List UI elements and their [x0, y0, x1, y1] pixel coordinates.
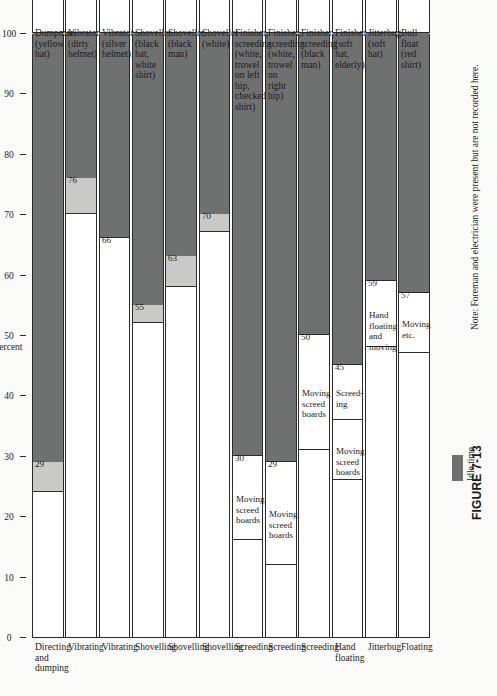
figure-note: Note: Foreman and electrician were prese… — [470, 64, 480, 330]
axis-tick — [20, 637, 26, 638]
bar-segment-idle — [100, 33, 130, 238]
work-segment-label: Moving screed boards — [236, 494, 262, 526]
category-label: Shovelling — [168, 642, 196, 653]
category-label: Screeding — [235, 642, 263, 653]
plot-area: 29Directing and dumpingDumpman (yellow h… — [32, 34, 430, 638]
work-area-edge — [166, 286, 196, 287]
axis-tick-label: 30 — [4, 452, 14, 462]
bar-segment-idle — [200, 33, 230, 214]
bar-row: 76 — [65, 34, 97, 638]
bar-row: 63 — [165, 34, 197, 638]
bar-segment-work — [299, 335, 329, 637]
axis-tick — [20, 395, 26, 396]
axis-tick — [20, 33, 26, 34]
category-label: Vibrating — [68, 642, 96, 653]
bar-segment-idle — [33, 33, 63, 462]
bar-row: 70 — [199, 34, 231, 638]
work-segment-divider — [333, 419, 363, 420]
work-segment-divider — [333, 479, 363, 480]
work-area-edge — [133, 322, 163, 323]
axis-title: Percent — [0, 342, 23, 352]
bar-segment-idle — [299, 33, 329, 335]
work-area-edge — [200, 231, 230, 232]
bar-segment-idle — [366, 33, 396, 281]
bar-value-label: 76 — [68, 175, 77, 185]
bar-row: Moving screed boards30 — [232, 34, 264, 638]
bar-value-label: 55 — [135, 302, 144, 312]
worker-descriptor-label: Finisher, screeding (white, trowel on le… — [235, 28, 263, 112]
bar-segment-idle — [333, 33, 363, 365]
axis-tick-label: 80 — [4, 150, 14, 160]
category-label: Shovelling — [202, 642, 230, 653]
bar-value-label: 66 — [102, 235, 111, 245]
worker-descriptor-label: Dumpman (yellow hat) — [35, 28, 63, 60]
worker-descriptor-label: Finisher (soft hat, elderly) — [335, 28, 363, 70]
work-segment-label: Moving screed boards — [269, 509, 295, 541]
bar-value-label: 57 — [401, 290, 410, 300]
work-segment-label: Moving screed boards — [302, 388, 328, 420]
work-segment-label: Moving etc. — [402, 319, 428, 340]
bar-value-label: 63 — [168, 253, 177, 263]
bar-segment-work — [200, 232, 230, 637]
worker-descriptor-label: Shoveller (white) — [202, 28, 230, 49]
category-label: Vibrating — [102, 642, 130, 653]
bar-value-label: 29 — [268, 459, 277, 469]
axis-tick-label: 100 — [2, 29, 16, 39]
work-segment-divider — [266, 564, 296, 565]
axis-tick — [20, 154, 26, 155]
worker-descriptor-label: Jitterbug (soft hat) — [368, 28, 396, 60]
axis-tick-label: 20 — [4, 512, 14, 522]
work-area-edge — [33, 491, 63, 492]
bar-value-label: 50 — [301, 332, 310, 342]
category-label: Hand floating — [335, 642, 363, 663]
bar-segment-work — [66, 214, 96, 637]
bar-segment-idle — [399, 33, 429, 293]
axis-tick-label: 60 — [4, 271, 14, 281]
axis-tick-label: 90 — [4, 89, 14, 99]
bar-row: Hand floating and moving59 — [365, 34, 397, 638]
axis-tick — [20, 456, 26, 457]
axis-tick — [20, 335, 26, 336]
work-segment-divider — [233, 539, 263, 540]
bar-value-label: 70 — [202, 211, 211, 221]
bar-row: 55 — [132, 34, 164, 638]
worker-descriptor-label: Shoveller (black man) — [168, 28, 196, 60]
bar-segment-work — [100, 238, 130, 637]
bar-segment-work — [266, 462, 296, 637]
figure-page: 0102030405060708090100 Percent 29Directi… — [0, 0, 497, 696]
category-label: Jitterbug — [368, 642, 396, 653]
work-segment-label: Moving screed boards — [336, 446, 362, 478]
category-label: Floating — [401, 642, 429, 653]
bar-row: Moving etc.57 — [398, 34, 430, 638]
axis-tick-label: 0 — [7, 633, 12, 643]
axis-tick — [20, 275, 26, 276]
figure-label: FIGURE 7-13 — [470, 445, 484, 520]
category-label: Screeding — [268, 642, 296, 653]
bar-value-label: 45 — [335, 362, 344, 372]
category-label: Screeding — [301, 642, 329, 653]
axis-tick — [20, 577, 26, 578]
chart-rotated-canvas: 0102030405060708090100 Percent 29Directi… — [0, 0, 497, 696]
bar-row: Moving screed boardsScreed- ing45 — [332, 34, 364, 638]
bar-row: 29 — [32, 34, 64, 638]
bar-segment-idle — [166, 33, 196, 256]
bar-value-label: 29 — [35, 459, 44, 469]
bar-segment-work — [399, 293, 429, 637]
worker-descriptor-label: Bull float (red shirt) — [401, 28, 429, 70]
bar-value-label: 59 — [368, 278, 377, 288]
category-label: Shovelling — [135, 642, 163, 653]
worker-descriptor-label: Vibrator (silver helmet) — [102, 28, 130, 60]
category-label: Directing and dumping — [35, 642, 63, 674]
percent-axis: 0102030405060708090100 — [20, 34, 32, 638]
axis-tick — [20, 516, 26, 517]
legend-swatch — [452, 455, 463, 481]
bar-value-label: 30 — [235, 453, 244, 463]
work-segment-label: Hand floating and moving — [369, 310, 395, 352]
axis-tick-label: 70 — [4, 210, 14, 220]
work-area-edge — [66, 213, 96, 214]
axis-tick — [20, 214, 26, 215]
bar-row: Moving screed boards29 — [265, 34, 297, 638]
work-segment-divider — [299, 449, 329, 450]
work-segment-divider — [399, 352, 429, 353]
worker-descriptor-label: Finisher, screeding (white, trowel on ri… — [268, 28, 296, 102]
